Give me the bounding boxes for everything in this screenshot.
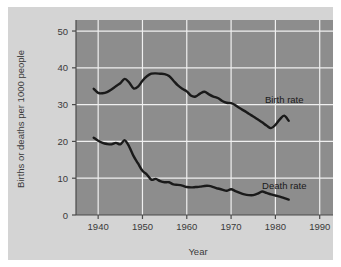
x-tick-label: 1960	[176, 221, 197, 232]
y-tick-labels: 01020304050	[57, 26, 68, 221]
x-tick-label: 1950	[132, 221, 153, 232]
death-rate-label: Death rate	[262, 180, 306, 191]
y-tick-label: 0	[63, 210, 68, 221]
x-tick-label: 1990	[309, 221, 330, 232]
x-tick-labels: 194019501960197019801990	[88, 221, 331, 232]
y-tick-label: 30	[57, 99, 68, 110]
birth-rate-label: Birth rate	[265, 94, 304, 105]
figure-panel: 194019501960197019801990 01020304050 Bir…	[8, 7, 333, 260]
x-tick-label: 1980	[265, 221, 286, 232]
y-tick-label: 20	[57, 136, 68, 147]
y-axis-title: Births or deaths per 1000 people	[15, 50, 26, 188]
line-chart: 194019501960197019801990 01020304050 Bir…	[8, 7, 333, 260]
x-tick-label: 1940	[88, 221, 109, 232]
y-tick-label: 50	[57, 26, 68, 37]
y-tick-label: 10	[57, 173, 68, 184]
x-tick-label: 1970	[221, 221, 242, 232]
y-tick-label: 40	[57, 62, 68, 73]
x-axis-title: Year	[188, 246, 207, 257]
